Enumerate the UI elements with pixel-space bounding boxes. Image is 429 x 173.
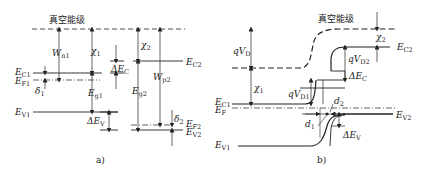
label-delta2: δ2 (174, 114, 184, 126)
label-eg1: Eg1 (87, 88, 103, 100)
label-chi1: χ1 (90, 46, 101, 58)
label-qvd2: qVD2 (348, 54, 370, 66)
label-d1: d1 (305, 119, 315, 131)
vacuum-level-label-b: 真空能级 (318, 13, 354, 24)
label-d2: d2 (334, 96, 344, 108)
label-wn1: Wn1 (52, 48, 70, 60)
label-ec2-b: EC2 (396, 42, 413, 54)
label-qvd1: qVD1 (288, 89, 310, 101)
label-dec-b: ΔEC (348, 71, 367, 83)
label-dec: ΔEC (110, 64, 129, 76)
label-dev-b: ΔEV (342, 130, 361, 142)
vacuum-level-curve (232, 29, 395, 68)
caption-b: b) (317, 155, 326, 165)
label-delta1: δ1 (35, 86, 45, 98)
ev1-curve (238, 115, 345, 146)
label-ev1: EV1 (14, 107, 30, 119)
label-qvd: qVD (233, 46, 250, 58)
label-ev2-b: EV2 (395, 110, 411, 122)
label-chi2: χ2 (140, 40, 151, 52)
label-wp2: Wp2 (153, 72, 171, 84)
label-chi2-b: χ2 (375, 32, 386, 44)
label-chi1-b: χ1 (253, 83, 264, 95)
interface-dot (326, 113, 329, 116)
label-dev: ΔEV (86, 116, 105, 128)
heterojunction-band-diagram: 真空能级 (0, 0, 429, 173)
label-ev1-b: EV1 (214, 140, 230, 152)
vacuum-level-label: 真空能级 (49, 14, 85, 25)
panel-b: 真空能级 (214, 12, 413, 165)
label-ec2: EC2 (185, 57, 202, 69)
panel-a: 真空能级 (14, 14, 202, 165)
label-eg2: Eg2 (131, 86, 147, 98)
caption-a: a) (96, 155, 105, 165)
d1-pointer (318, 116, 326, 126)
